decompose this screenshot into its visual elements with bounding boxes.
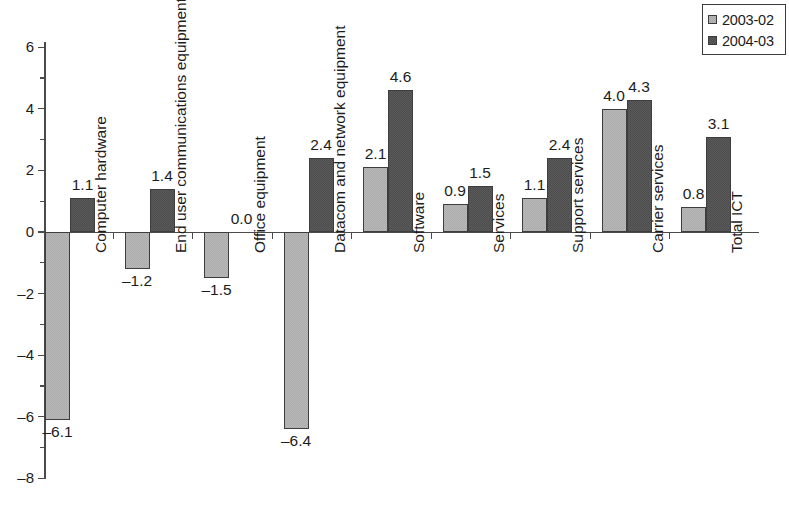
bar-2004-03-datacom-and-network-equipment [309,158,334,232]
bar-2004-03-services [468,186,493,232]
bar-2003-02-services [443,204,468,232]
bar-2004-03-end-user-communications-equipment [150,189,175,232]
bar-value-label: 3.1 [697,116,741,132]
x-tick [510,233,511,239]
y-tick-label-2: 2 [2,162,34,177]
bar-2003-02-support-services [522,198,547,232]
x-tick [590,233,591,239]
bar-2003-02-computer-hardware [45,232,70,420]
y-tick-minor-5 [40,77,44,78]
y-tick-label--4: –4 [2,347,34,362]
bar-value-label: 4.3 [617,79,661,95]
legend-item-2003-02: 2003-02 [708,9,780,30]
category-label: Office equipment [252,136,268,253]
y-tick-label-0: 0 [2,224,34,239]
bar-value-label: 4.6 [379,69,423,85]
legend-label-2004-03: 2004-03 [722,33,774,49]
x-tick [192,233,193,239]
y-tick--6 [38,416,44,417]
y-tick-minor-3 [40,139,44,140]
legend-swatch-icon-2004-03 [708,36,717,45]
y-tick-label-6: 6 [2,39,34,54]
legend-swatch-icon-2003-02 [708,15,717,24]
y-tick-label--2: –2 [2,286,34,301]
y-tick--2 [38,293,44,294]
y-tick-4 [38,108,44,109]
x-tick [669,233,670,239]
y-tick-minor--1 [40,262,44,263]
category-label: Services [491,194,507,253]
y-tick-6 [38,47,44,48]
bar-2003-02-total-ict [681,207,706,232]
category-label: Datacom and network equipment [332,26,348,253]
bar-2004-03-carrier-services [627,100,652,232]
y-tick-minor--3 [40,324,44,325]
category-label: Carrier services [650,144,666,253]
x-tick [351,233,352,239]
chart-legend: 2003-02 2004-03 [702,4,786,55]
legend-item-2004-03: 2004-03 [708,30,780,51]
bar-2003-02-end-user-communications-equipment [125,232,150,269]
y-tick--8 [38,478,44,479]
x-tick [431,233,432,239]
category-label: Support services [570,138,586,253]
category-label: Software [411,192,427,253]
y-tick-minor--7 [40,447,44,448]
bar-2003-02-carrier-services [602,109,627,232]
y-tick-0 [38,231,44,232]
y-tick-label-4: 4 [2,101,34,116]
y-tick-2 [38,170,44,171]
bar-chart: 2003-02 2004-03 6420–2–4–6–8 –6.11.1Comp… [0,0,789,529]
y-tick-minor-1 [40,201,44,202]
bar-value-label: 1.5 [458,165,502,181]
bar-2003-02-software [363,167,388,232]
category-label: End user communications equipment [173,0,189,253]
y-tick-label--6: –6 [2,409,34,424]
x-tick [113,233,114,239]
category-label: Computer hardware [93,116,109,253]
bar-value-label: –6.4 [274,433,318,449]
bar-2003-02-datacom-and-network-equipment [284,232,309,429]
bar-value-label: –1.2 [115,273,159,289]
legend-label-2003-02: 2003-02 [722,12,774,28]
bar-value-label: –1.5 [195,282,239,298]
bar-value-label: –6.1 [36,424,80,440]
y-tick-label--8: –8 [2,470,34,485]
y-tick-minor--5 [40,385,44,386]
bar-2003-02-office-equipment [204,232,229,278]
x-tick [272,233,273,239]
category-label: Total ICT [729,191,745,253]
y-tick--4 [38,355,44,356]
